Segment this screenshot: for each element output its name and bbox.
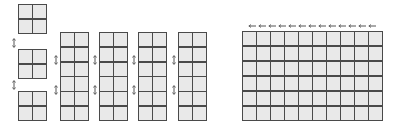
small-block-2x2 [18, 4, 47, 34]
grid-cell [369, 107, 382, 120]
grid-cell [299, 32, 312, 45]
double-arrow-vertical-icon [93, 55, 97, 65]
grid-cell [327, 62, 340, 75]
grid-cell [179, 33, 192, 46]
grid-cell [313, 107, 326, 120]
grid-cell [327, 92, 340, 105]
grid-cell [257, 32, 270, 45]
grid-cell [139, 33, 152, 46]
grid-cell [75, 33, 88, 46]
grid-cell [355, 77, 368, 90]
grid-cell [153, 77, 166, 90]
grid-cell [285, 62, 298, 75]
grid-cell [75, 77, 88, 90]
double-arrow-vertical-icon [54, 55, 58, 65]
grid-cell [327, 32, 340, 45]
grid-cell [33, 50, 46, 63]
grid-cell [179, 92, 192, 105]
small-block-2x2 [18, 49, 47, 79]
grid-cell [341, 92, 354, 105]
grid-cell [243, 77, 256, 90]
grid-cell [100, 63, 113, 76]
grid-cell [313, 62, 326, 75]
grid-cell [285, 107, 298, 120]
grid-cell [100, 77, 113, 90]
grid-cell [100, 48, 113, 61]
horizontal-arrows-row-icon [248, 24, 378, 28]
grid-cell [369, 32, 382, 45]
grid-cell [179, 63, 192, 76]
grid-cell [33, 65, 46, 78]
grid-cell [193, 92, 206, 105]
grid-cell [327, 107, 340, 120]
grid-cell [114, 107, 127, 120]
grid-cell [153, 33, 166, 46]
grid-cell [355, 107, 368, 120]
grid-cell [19, 107, 32, 120]
grid-cell [257, 47, 270, 60]
grid-cell [114, 77, 127, 90]
grid-cell [19, 65, 32, 78]
grid-cell [355, 62, 368, 75]
grid-cell [299, 77, 312, 90]
grid-cell [257, 107, 270, 120]
grid-cell [299, 47, 312, 60]
grid-cell [75, 63, 88, 76]
double-arrow-vertical-icon [54, 85, 58, 95]
grid-cell [179, 77, 192, 90]
double-arrow-vertical-icon [172, 85, 176, 95]
grid-cell [139, 107, 152, 120]
grid-cell [355, 47, 368, 60]
grid-cell [33, 20, 46, 33]
double-arrow-vertical-icon [93, 85, 97, 95]
grid-cell [114, 92, 127, 105]
grid-cell [153, 48, 166, 61]
grid-cell [33, 5, 46, 18]
grid-cell [257, 92, 270, 105]
grid-cell [114, 63, 127, 76]
grid-cell [100, 33, 113, 46]
double-arrow-vertical-icon [132, 55, 136, 65]
grid-cell [61, 33, 74, 46]
grid-cell [61, 48, 74, 61]
grid-cell [243, 92, 256, 105]
grid-cell [19, 50, 32, 63]
grid-cell [153, 92, 166, 105]
grid-cell [61, 63, 74, 76]
grid-cell [341, 47, 354, 60]
grid-cell [243, 107, 256, 120]
grid-cell [327, 77, 340, 90]
grid-cell [313, 47, 326, 60]
grid-cell [100, 92, 113, 105]
grid-cell [299, 92, 312, 105]
grid-cell [257, 77, 270, 90]
grid-cell [341, 32, 354, 45]
grid-cell [299, 107, 312, 120]
grid-cell [61, 92, 74, 105]
grid-cell [139, 63, 152, 76]
grid-cell [153, 63, 166, 76]
grid-cell [19, 5, 32, 18]
grid-cell [179, 48, 192, 61]
grid-cell [271, 77, 284, 90]
grid-cell [355, 32, 368, 45]
grid-cell [114, 33, 127, 46]
grid-cell [33, 107, 46, 120]
tall-column-6x2 [60, 32, 89, 121]
grid-cell [139, 77, 152, 90]
grid-cell [257, 62, 270, 75]
tall-column-6x2 [138, 32, 167, 121]
grid-cell [299, 62, 312, 75]
double-arrow-vertical-icon [172, 55, 176, 65]
grid-cell [243, 47, 256, 60]
grid-cell [285, 47, 298, 60]
grid-cell [193, 63, 206, 76]
grid-cell [179, 107, 192, 120]
grid-cell [61, 107, 74, 120]
grid-cell [271, 92, 284, 105]
grid-cell [369, 92, 382, 105]
grid-cell [61, 77, 74, 90]
tall-column-6x2 [178, 32, 207, 121]
grid-cell [271, 47, 284, 60]
grid-cell [139, 48, 152, 61]
